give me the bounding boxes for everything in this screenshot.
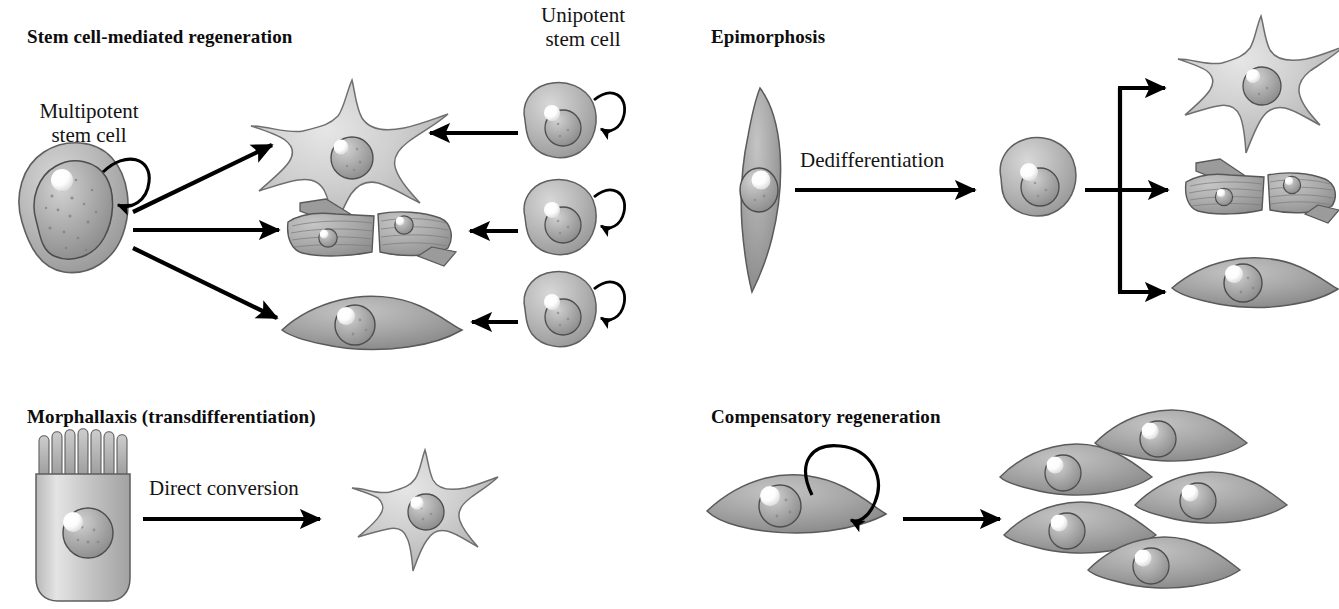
heading-stem-cell-mediated-regeneration: Stem cell-mediated regeneration xyxy=(27,26,293,48)
cell-fibroblast-p2 xyxy=(1172,258,1338,308)
cell-unipotent-stem-cell-3 xyxy=(524,272,625,347)
diagram-svg xyxy=(0,0,1339,609)
figure-canvas: Stem cell-mediated regeneration Multipot… xyxy=(0,0,1339,609)
cell-differentiated-elongated xyxy=(740,88,781,292)
label-dedifferentiation: Dedifferentiation xyxy=(800,149,944,173)
label-multipotent-line1: Multipotent xyxy=(39,99,138,123)
label-unipotent-line2: stem cell xyxy=(545,27,620,51)
label-multipotent-stem-cell: Multipotent stem cell xyxy=(14,100,164,147)
arrow-multipotent-to-fibroblast xyxy=(133,248,277,318)
label-direct-conversion: Direct conversion xyxy=(149,477,299,501)
cell-source-fibroblast xyxy=(707,475,886,533)
label-multipotent-line2: stem cell xyxy=(51,123,126,147)
cell-cluster-fibroblasts xyxy=(1000,410,1339,588)
cell-muscle-p2 xyxy=(1186,159,1339,223)
branch-connector-epimorphosis xyxy=(1085,88,1168,292)
cell-unipotent-stem-cell-2 xyxy=(524,180,625,255)
heading-compensatory-regeneration: Compensatory regeneration xyxy=(711,406,941,428)
heading-morphallaxis: Morphallaxis (transdifferentiation) xyxy=(27,406,316,428)
cell-fibroblast-cluster-2 xyxy=(1095,410,1247,461)
cell-fibroblast-p1 xyxy=(282,296,462,349)
label-unipotent-stem-cell: Unipotent stem cell xyxy=(513,4,653,51)
cell-muscle-p1 xyxy=(288,199,456,266)
cell-neuron-p2 xyxy=(1178,16,1339,153)
cell-columnar-epithelial xyxy=(36,429,130,601)
cell-unipotent-stem-cell-1 xyxy=(524,83,625,158)
panel-morphallaxis xyxy=(36,429,498,601)
arrow-multipotent-to-neuron xyxy=(133,145,272,212)
cell-multipotent-stem-cell xyxy=(19,143,128,273)
cell-neuron-p1 xyxy=(251,80,448,235)
label-unipotent-line1: Unipotent xyxy=(541,3,625,27)
heading-epimorphosis: Epimorphosis xyxy=(711,26,825,48)
panel-compensatory-regeneration xyxy=(707,410,1339,588)
cell-neuron-p3 xyxy=(352,450,498,571)
microvilli xyxy=(39,429,127,476)
cell-dedifferentiated xyxy=(1000,138,1076,216)
